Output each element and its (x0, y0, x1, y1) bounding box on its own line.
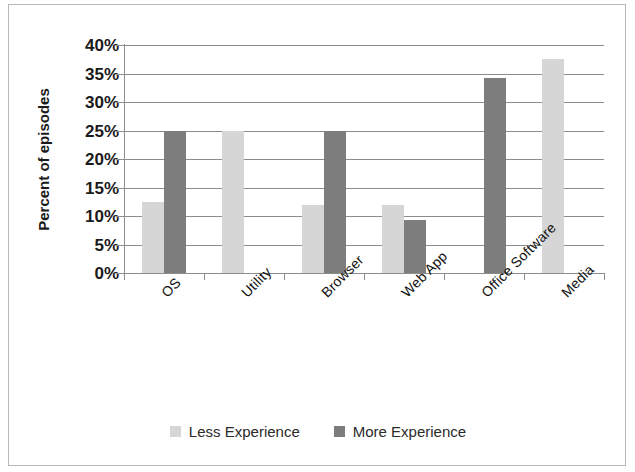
x-axis-tick-mark (284, 273, 285, 280)
bar (222, 131, 244, 274)
y-axis-tick-mark (117, 131, 124, 132)
x-axis-tick-mark (604, 273, 605, 280)
y-axis-tick-label: 40% (61, 37, 119, 54)
y-axis-tick-label: 10% (61, 208, 119, 225)
legend-entry[interactable]: Less Experience (170, 423, 300, 440)
bar (484, 78, 506, 274)
legend-color-swatch (170, 426, 181, 437)
y-axis-tick-mark (117, 188, 124, 189)
x-axis-category-labels: OSUtilityBrowserWeb AppOffice SoftwareMe… (124, 281, 614, 391)
y-axis-tick-mark (117, 159, 124, 160)
bar (302, 205, 324, 273)
y-axis-tick-mark (117, 245, 124, 246)
y-axis-tick-labels: 40%35%30%25%20%15%10%5%0% (61, 31, 119, 281)
y-axis-tick-mark (117, 45, 124, 46)
x-axis-tick-mark (364, 273, 365, 280)
legend-entry[interactable]: More Experience (334, 423, 466, 440)
legend-color-swatch (334, 426, 345, 437)
x-axis-tick-mark (204, 273, 205, 280)
legend-label: Less Experience (189, 423, 300, 440)
y-axis-tick-label: 30% (61, 94, 119, 111)
bar (382, 205, 404, 273)
legend-label: More Experience (353, 423, 466, 440)
bar (324, 131, 346, 274)
y-axis-tick-mark (117, 216, 124, 217)
y-axis-tick-label: 15% (61, 179, 119, 196)
x-axis-tick-mark (524, 273, 525, 280)
chart-container: Percent of episodes 40%35%30%25%20%15%10… (8, 4, 626, 466)
y-axis-tick-label: 5% (61, 236, 119, 253)
x-axis-tick-mark (124, 273, 125, 280)
y-axis-tick-label: 0% (61, 265, 119, 282)
bar (142, 202, 164, 273)
y-axis-tick-label: 35% (61, 65, 119, 82)
chart-legend: Less ExperienceMore Experience (9, 423, 627, 440)
y-axis-tick-label: 25% (61, 122, 119, 139)
x-axis-category-label: OS (158, 274, 184, 300)
y-axis-tick-mark (117, 102, 124, 103)
y-axis-tick-mark (117, 74, 124, 75)
bar (164, 131, 186, 274)
y-axis-tick-label: 20% (61, 151, 119, 168)
x-axis-tick-mark (444, 273, 445, 280)
y-axis-tick-mark (117, 273, 124, 274)
y-axis-title: Percent of episodes (35, 60, 52, 260)
